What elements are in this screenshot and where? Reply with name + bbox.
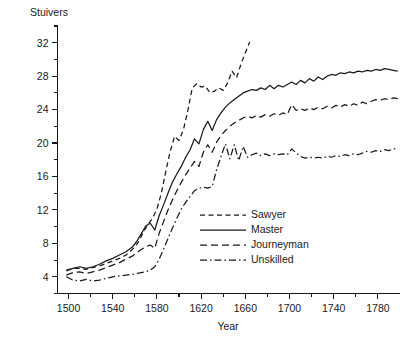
y-tick-label: 4 [43,271,49,283]
legend-label-master: Master [251,223,284,235]
y-axis-title: Stuivers [30,6,68,18]
chart-legend: SawyerMasterJourneymanUnskilled [200,208,309,265]
x-tick-label: 1700 [278,302,302,314]
y-axis: 48121620242832 [37,26,58,294]
legend-label-unskilled: Unskilled [251,253,294,265]
y-tick-label: 28 [37,70,49,82]
x-tick-label: 1620 [189,302,213,314]
x-tick-label: 1780 [366,302,390,314]
x-tick-label: 1500 [57,302,81,314]
x-tick-label: 1540 [101,302,125,314]
y-tick-label: 8 [43,237,49,249]
y-tick-label: 16 [37,170,49,182]
x-axis-title: Year [217,320,239,332]
y-tick-label: 32 [37,37,49,49]
data-series-group [66,42,397,281]
series-line-sawyer [66,42,249,270]
y-tick-label: 12 [37,204,49,216]
y-tick-label: 24 [37,103,49,115]
x-tick-label: 1660 [234,302,258,314]
x-tick-label: 1740 [322,302,346,314]
x-axis: 15001540158016201660170017401780 [57,294,390,314]
legend-label-sawyer: Sawyer [251,208,287,220]
wage-line-chart: Stuivers 48121620242832 1500154015801620… [0,0,407,341]
y-tick-label: 20 [37,137,49,149]
series-line-master [66,69,397,271]
series-line-journeyman [66,98,397,275]
x-tick-label: 1580 [145,302,169,314]
chart-canvas: Stuivers 48121620242832 1500154015801620… [0,0,407,341]
legend-label-journeyman: Journeyman [251,238,309,250]
